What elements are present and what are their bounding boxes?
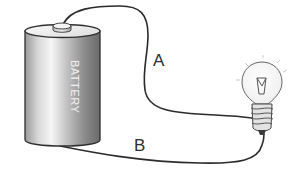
wire-b-label: B bbox=[134, 136, 145, 155]
circuit-diagram: BATTERY A B bbox=[0, 0, 298, 178]
bulb-glass bbox=[242, 62, 282, 104]
bulb-screw-base bbox=[251, 104, 273, 135]
wire-a-label: A bbox=[153, 51, 165, 70]
battery-label: BATTERY bbox=[69, 60, 81, 113]
battery: BATTERY bbox=[25, 23, 100, 146]
battery-terminal bbox=[53, 23, 71, 32]
light-bulb bbox=[236, 55, 287, 135]
